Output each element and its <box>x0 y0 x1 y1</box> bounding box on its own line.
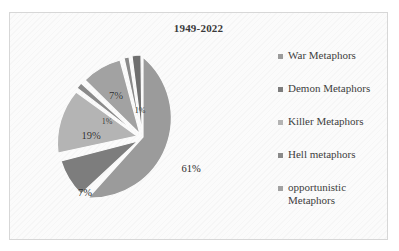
legend-item-opportunistic-metaphors[interactable]: opportunistic Metaphors <box>278 181 388 207</box>
pie-label-hell-metaphors-lower: 1% <box>102 117 113 126</box>
pie-label-war-metaphors: 61% <box>181 163 200 174</box>
pie-label-hell-metaphors-upper: 1% <box>135 106 146 115</box>
chart-title: 1949-2022 <box>10 22 387 34</box>
chart-frame: 1949-2022 61% 7% 19% 1% 7% 1% <box>9 12 388 240</box>
pie-label-opportunistic-metaphors: 7% <box>109 90 123 101</box>
pie-label-demon-metaphors: 7% <box>78 187 92 198</box>
legend-item-demon-metaphors[interactable]: Demon Metaphors <box>278 82 388 95</box>
legend-item-hell-metaphors[interactable]: Hell metaphors <box>278 148 388 161</box>
legend-swatch-icon <box>278 54 283 59</box>
chart-legend: War Metaphors Demon Metaphors Killer Met… <box>278 49 388 207</box>
pie-chart-plot-area: 61% 7% 19% 1% 7% 1% <box>10 35 272 239</box>
pie-chart-svg <box>10 35 272 239</box>
legend-swatch-icon <box>278 186 283 191</box>
legend-label: Hell metaphors <box>288 148 356 161</box>
legend-swatch-icon <box>278 87 283 92</box>
legend-label: Demon Metaphors <box>288 82 370 95</box>
legend-item-war-metaphors[interactable]: War Metaphors <box>278 49 388 62</box>
legend-label: Killer Metaphors <box>288 115 363 128</box>
legend-swatch-icon <box>278 153 283 158</box>
legend-label: War Metaphors <box>288 49 356 62</box>
legend-label: opportunistic Metaphors <box>288 181 388 207</box>
legend-swatch-icon <box>278 120 283 125</box>
legend-item-killer-metaphors[interactable]: Killer Metaphors <box>278 115 388 128</box>
pie-label-killer-metaphors: 19% <box>81 130 100 141</box>
